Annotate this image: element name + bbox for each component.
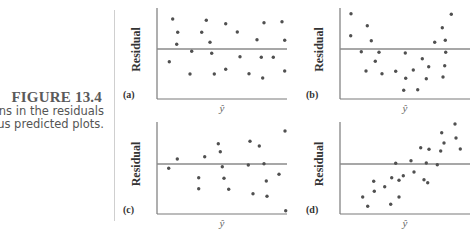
data-point xyxy=(454,136,457,139)
x-axis-label-d: ŷ xyxy=(402,217,408,229)
data-point xyxy=(221,165,224,168)
data-point xyxy=(383,185,386,188)
data-point xyxy=(397,195,400,198)
data-point xyxy=(389,203,392,206)
data-point xyxy=(444,39,447,42)
data-point xyxy=(238,55,241,58)
data-point xyxy=(283,39,286,42)
data-point xyxy=(419,146,422,149)
data-point xyxy=(402,89,405,92)
data-point xyxy=(444,51,447,54)
y-axis-label-a: Residual xyxy=(129,27,143,72)
data-point xyxy=(200,31,203,34)
data-point xyxy=(370,39,373,42)
data-point xyxy=(213,72,216,75)
data-point xyxy=(421,57,424,60)
data-point xyxy=(397,179,400,182)
data-point xyxy=(175,43,178,46)
data-point xyxy=(440,131,443,134)
data-point xyxy=(176,157,179,160)
data-point xyxy=(426,181,429,184)
data-point xyxy=(277,173,280,176)
data-point xyxy=(394,70,397,73)
data-point xyxy=(374,60,377,63)
data-point xyxy=(349,34,352,37)
data-point xyxy=(416,88,419,91)
data-point xyxy=(227,188,230,191)
y-axis-label-d: Residual xyxy=(312,141,326,186)
data-point xyxy=(372,180,375,183)
data-point xyxy=(442,141,445,144)
data-point xyxy=(425,161,428,164)
data-point xyxy=(197,187,200,190)
data-point xyxy=(404,77,407,80)
data-point xyxy=(280,20,283,23)
x-axis-label-b: ŷ xyxy=(402,102,408,114)
data-point xyxy=(205,19,208,22)
panel-label-b: (b) xyxy=(306,89,318,101)
data-point xyxy=(453,122,456,125)
data-point xyxy=(409,159,412,162)
data-point xyxy=(222,177,225,180)
data-point xyxy=(412,68,415,71)
y-axis-label-c: Residual xyxy=(129,141,143,186)
data-point xyxy=(283,129,286,132)
data-point xyxy=(439,149,442,152)
data-point xyxy=(176,31,179,34)
data-point xyxy=(380,72,383,75)
data-point xyxy=(188,72,191,75)
data-point xyxy=(262,162,265,165)
x-axis-label-a: ŷ xyxy=(219,102,225,114)
data-point xyxy=(373,190,376,193)
data-point xyxy=(404,51,407,54)
data-point xyxy=(433,41,436,44)
data-point xyxy=(261,76,264,79)
data-point xyxy=(262,21,265,24)
data-point xyxy=(219,150,222,153)
data-point xyxy=(422,178,425,181)
data-point xyxy=(203,155,206,158)
data-point xyxy=(361,195,364,198)
data-point xyxy=(197,176,200,179)
data-point xyxy=(427,148,430,151)
data-point xyxy=(272,56,275,59)
data-point xyxy=(171,17,174,20)
data-point xyxy=(217,142,220,145)
data-point xyxy=(247,72,250,75)
data-point xyxy=(349,12,352,15)
data-point xyxy=(443,64,446,67)
data-point xyxy=(224,68,227,71)
y-axis-label-b: Residual xyxy=(312,27,326,72)
data-point xyxy=(260,56,263,59)
data-point xyxy=(377,51,380,54)
data-point xyxy=(265,179,268,182)
residual-plots: Residual(a)ŷResidual(b)ŷResidual(c)ŷResi… xyxy=(0,0,470,231)
data-point xyxy=(210,52,213,55)
data-point xyxy=(402,174,405,177)
data-point xyxy=(283,69,286,72)
data-point xyxy=(168,60,171,63)
panel-label-d: (d) xyxy=(306,204,318,216)
panel-label-c: (c) xyxy=(123,204,134,216)
data-point xyxy=(224,22,227,25)
data-point xyxy=(247,163,250,166)
data-point xyxy=(366,205,369,208)
data-point xyxy=(412,170,415,173)
panel-label-a: (a) xyxy=(123,89,135,101)
data-point xyxy=(208,41,211,44)
data-point xyxy=(366,24,369,27)
data-point xyxy=(364,69,367,72)
data-point xyxy=(390,176,393,179)
data-point xyxy=(441,75,444,78)
data-point xyxy=(394,162,397,165)
data-point xyxy=(236,30,239,33)
data-point xyxy=(190,50,193,53)
data-point xyxy=(265,195,268,198)
data-point xyxy=(425,77,428,80)
data-point xyxy=(258,144,261,147)
data-point xyxy=(248,140,251,143)
data-point xyxy=(167,167,170,170)
data-point xyxy=(441,26,444,29)
data-point xyxy=(251,192,254,195)
x-axis-label-c: ŷ xyxy=(219,217,225,229)
